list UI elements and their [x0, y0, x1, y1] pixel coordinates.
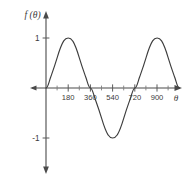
x-axis-theta-label: θ — [174, 93, 179, 103]
y-tick-label-negative-one: -1 — [32, 134, 40, 143]
x-tick-label-360: 360 — [84, 93, 97, 102]
y-axis-down-arrow-icon — [43, 167, 49, 175]
y-axis-up-arrow-icon — [43, 11, 49, 19]
x-tick-label-720: 720 — [128, 93, 141, 102]
x-axis-right-arrow-icon — [175, 85, 183, 91]
y-axis-function-label: f (θ) — [25, 9, 41, 21]
sine-wave-figure: 180 360 540 720 900 1 -1 f (θ) θ — [0, 0, 192, 177]
x-tick-label-900: 900 — [151, 93, 164, 102]
x-tick-label-540: 540 — [106, 93, 119, 102]
x-tick-label-180: 180 — [62, 93, 75, 102]
y-tick-label-positive-one: 1 — [35, 34, 40, 43]
x-axis-left-arrow-icon — [30, 85, 37, 90]
plot-canvas: 180 360 540 720 900 1 -1 f (θ) θ — [0, 0, 192, 177]
